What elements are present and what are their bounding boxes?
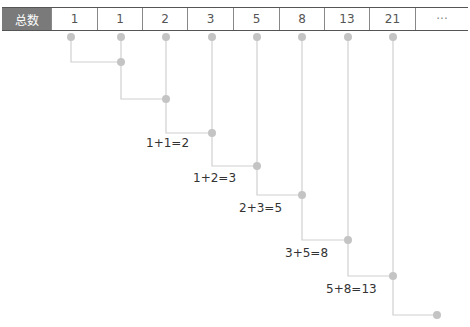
equation-label: 5+8=13 (326, 282, 377, 296)
equation-label: 3+5=8 (285, 246, 328, 260)
equation-label: 2+3=5 (239, 201, 282, 215)
connector-diagram (0, 0, 470, 327)
equation-label: 1+1=2 (146, 136, 189, 150)
equation-label: 1+2=3 (193, 171, 236, 185)
